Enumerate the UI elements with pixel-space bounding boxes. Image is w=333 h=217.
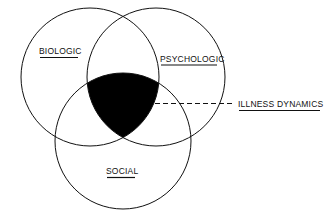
psychologic-label: PSYCHOLOGIC: [160, 54, 225, 64]
biologic-label: BIOLOGIC: [39, 46, 82, 56]
illness-dynamics-label: ILLNESS DYNAMICS: [238, 99, 324, 109]
social-label: SOCIAL: [106, 166, 138, 176]
venn-diagram: BIOLOGIC PSYCHOLOGIC SOCIAL ILLNESS DYNA…: [0, 0, 333, 217]
illness-dynamics-region: [55, 73, 191, 209]
